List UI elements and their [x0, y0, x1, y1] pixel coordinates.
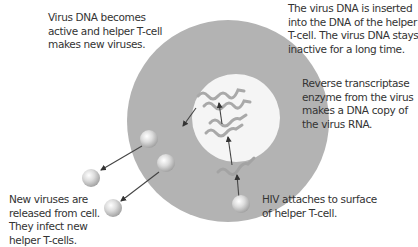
label-new-viruses-released: New viruses are released from cell. They…: [9, 193, 100, 247]
label-line: HIV attaches to surface: [262, 193, 377, 207]
label-virus-dna-inserted: The virus DNA is inserted into the DNA o…: [288, 2, 418, 56]
new-virus-inside-2: [157, 154, 175, 172]
label-line: enzyme from the virus: [302, 91, 413, 105]
label-line: released from cell.: [9, 207, 100, 221]
label-line: into the DNA of the helper: [288, 16, 418, 30]
label-line: active and helper T-cell: [48, 25, 162, 39]
label-line: the virus RNA.: [302, 118, 413, 132]
label-line: New viruses are: [9, 193, 100, 207]
label-reverse-transcriptase: Reverse transcriptase enzyme from the vi…: [302, 77, 413, 131]
label-virus-dna-active: Virus DNA becomes active and helper T-ce…: [48, 11, 162, 52]
label-line: Virus DNA becomes: [48, 11, 162, 25]
label-line: The virus DNA is inserted: [288, 2, 418, 16]
label-line: helper T-cells.: [9, 234, 100, 247]
released-virus-2: [104, 199, 122, 217]
label-line: T-cell. The virus DNA stays: [288, 29, 418, 43]
label-line: inactive for a long time.: [288, 43, 418, 57]
label-line: makes a DNA copy of: [302, 104, 413, 118]
label-line: of helper T-cell.: [262, 207, 377, 221]
hiv-attaching-virus: [232, 195, 250, 213]
label-line: Reverse transcriptase: [302, 77, 413, 91]
label-line: makes new viruses.: [48, 38, 162, 52]
new-virus-inside-1: [140, 130, 158, 148]
label-hiv-attaches: HIV attaches to surface of helper T-cell…: [262, 193, 377, 220]
label-line: They infect new: [9, 220, 100, 234]
released-virus-1: [82, 169, 100, 187]
